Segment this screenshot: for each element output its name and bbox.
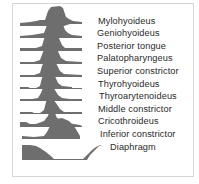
trace-cricothroideus [20,106,82,127]
label-thyroarytenoideus: Thyroarytenoideus [99,91,177,101]
label-superior-constrictor: Superior constrictor [97,66,179,76]
label-mylohyoideus: Mylohyoideus [98,16,155,26]
trace-group [20,6,102,160]
label-inferior-constrictor: Inferior constrictor [100,129,176,139]
trace-diaphragm-2 [82,145,102,160]
label-palatopharyngeus: Palatopharyngeus [97,53,173,63]
label-posterior-tongue: Posterior tongue [97,41,166,51]
label-middle-constrictor: Middle constrictor [98,104,172,114]
label-geniohyoideus: Geniohyoideus [97,28,160,38]
trace-diaphragm-1 [22,145,54,160]
label-diaphragm: Diaphragm [110,142,156,152]
label-thyrohyoideus: Thyrohyoideus [98,79,160,89]
label-cricothroideus: Cricothroideus [98,116,159,126]
